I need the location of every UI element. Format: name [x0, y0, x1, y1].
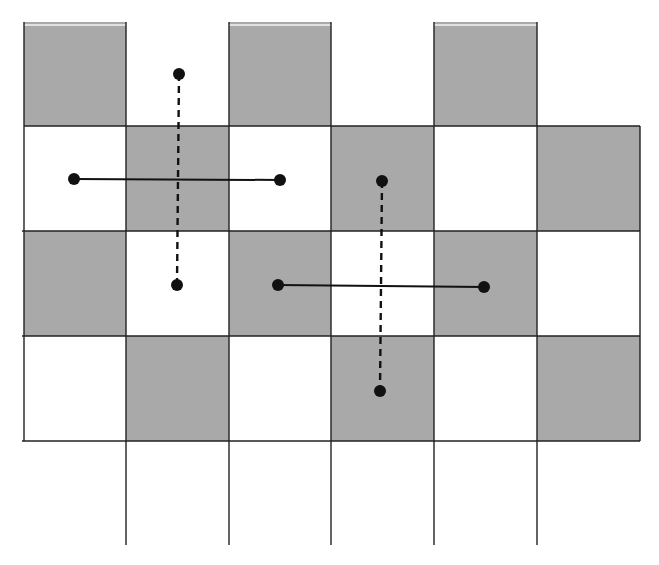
endpoint-dot	[478, 281, 490, 293]
endpoint-dot	[274, 174, 286, 186]
endpoint-dot	[374, 385, 386, 397]
shaded-cell	[126, 336, 229, 441]
shaded-cell	[24, 22, 126, 126]
shaded-cell	[24, 231, 126, 336]
shaded-cell	[434, 22, 537, 126]
endpoint-dot	[376, 175, 388, 187]
endpoint-dot	[272, 279, 284, 291]
endpoint-dot	[173, 68, 185, 80]
endpoint-dot	[171, 279, 183, 291]
shaded-cell	[229, 22, 331, 126]
horizontal-segment-1	[74, 179, 280, 180]
endpoint-dot	[68, 173, 80, 185]
shaded-cell	[537, 126, 640, 231]
shaded-cell	[537, 336, 640, 441]
checkerboard-diagram	[0, 0, 659, 565]
